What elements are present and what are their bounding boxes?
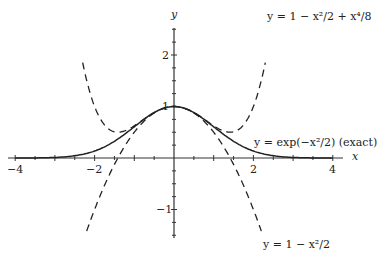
x-tick-label-2: 2 <box>250 163 257 176</box>
annotation-quartic: y = 1 − x²/2 + x⁴/8 <box>267 10 371 23</box>
axes <box>8 28 343 238</box>
annotation-quadratic: y = 1 − x²/2 <box>263 238 330 251</box>
x-tick-label-m4: −4 <box>7 163 23 176</box>
y-axis-label: y <box>171 8 177 21</box>
y-tick-label-m1: −1 <box>156 203 172 216</box>
y-tick-label-1: 1 <box>162 100 169 113</box>
chart-plot-area <box>0 0 377 261</box>
y-tick-label-2: 2 <box>162 49 169 62</box>
x-tick-label-m2: −2 <box>86 163 102 176</box>
x-tick-label-4: 4 <box>329 163 336 176</box>
annotation-exact: y = exp(−x²/2) (exact) <box>254 136 377 149</box>
x-axis-label: x <box>352 150 358 163</box>
